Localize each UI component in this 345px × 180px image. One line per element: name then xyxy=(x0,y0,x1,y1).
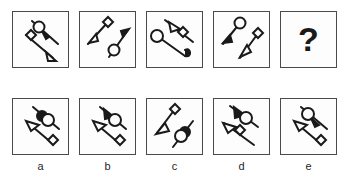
triangle-arrowhead-down-left xyxy=(156,123,169,134)
option-c[interactable] xyxy=(146,98,203,155)
question-panel-3[interactable] xyxy=(146,11,203,68)
option-b[interactable] xyxy=(79,98,136,155)
options-row xyxy=(0,98,345,157)
circle-marker xyxy=(109,114,121,126)
circle-marker xyxy=(175,130,187,142)
arrowhead-down-left xyxy=(223,35,232,43)
circle-marker xyxy=(151,30,163,42)
figure-q2 xyxy=(80,12,135,67)
figure-d xyxy=(214,99,269,154)
option-label-a: a xyxy=(12,160,69,172)
figure-q4 xyxy=(214,12,269,67)
option-d[interactable] xyxy=(213,98,270,155)
figure-e xyxy=(281,99,336,154)
option-label-e: e xyxy=(280,160,337,172)
question-row: ? xyxy=(0,11,345,70)
triangle-arrowhead xyxy=(46,52,56,61)
question-panel-2[interactable] xyxy=(79,11,136,68)
option-labels: a b c d e xyxy=(0,160,345,178)
option-label-c: c xyxy=(146,160,203,172)
missing-answer-panel[interactable]: ? xyxy=(280,11,337,68)
circle-marker xyxy=(235,18,246,29)
arrowhead-down-left xyxy=(89,34,98,43)
figure-b xyxy=(80,99,135,154)
circle-marker xyxy=(42,114,54,126)
option-a[interactable] xyxy=(12,98,69,155)
analogy-puzzle: ? xyxy=(0,0,345,180)
figure-q1 xyxy=(13,12,68,67)
option-label-d: d xyxy=(213,160,270,172)
figure-c xyxy=(147,99,202,154)
diamond-marker xyxy=(48,135,58,145)
figure-a xyxy=(13,99,68,154)
option-e[interactable] xyxy=(280,98,337,155)
question-panel-1[interactable] xyxy=(12,11,69,68)
question-mark: ? xyxy=(281,12,336,67)
diamond-marker xyxy=(115,135,125,145)
circle-marker xyxy=(109,45,120,56)
diamond-marker xyxy=(316,135,326,145)
question-panel-4[interactable] xyxy=(213,11,270,68)
curled-hook-end xyxy=(185,49,190,56)
arrowhead-up-right xyxy=(121,29,129,37)
option-label-b: b xyxy=(79,160,136,172)
circle-marker xyxy=(240,112,252,124)
figure-q3 xyxy=(147,12,202,67)
